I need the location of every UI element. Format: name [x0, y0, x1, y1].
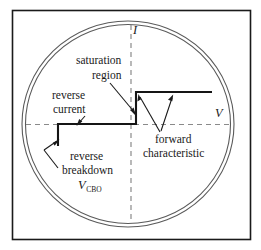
axis-label-voltage: V: [215, 106, 224, 120]
forward-characteristic-label-line2: characteristic: [143, 147, 204, 159]
reverse-breakdown-label-line1: reverse: [70, 150, 103, 162]
saturation-region-label-line2: region: [92, 69, 122, 82]
forward-characteristic-leader-a: [137, 94, 160, 132]
breakdown-voltage-symbol: VCBO: [78, 178, 102, 194]
saturation-region-label-line1: saturation: [76, 54, 122, 66]
forward-characteristic-leader-b: [161, 95, 173, 132]
breakdown-voltage-subscript: CBO: [86, 185, 102, 194]
forward-characteristic-label-line1: forward: [155, 133, 192, 145]
axis-label-current: I: [132, 23, 138, 37]
reverse-current-label-line1: reverse: [52, 89, 85, 101]
figure-container: I V saturation region reverse current re…: [0, 0, 261, 250]
reverse-breakdown-label-line2: breakdown: [62, 164, 113, 176]
saturation-region-leader: [110, 83, 136, 116]
reverse-current-label-line2: current: [53, 103, 86, 115]
diode-characteristic-figure: I V saturation region reverse current re…: [0, 0, 261, 250]
